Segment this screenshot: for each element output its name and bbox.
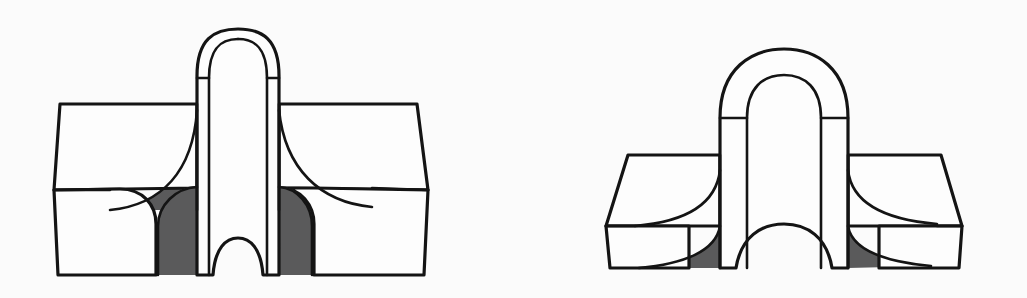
left-figure <box>0 0 520 298</box>
plate-right-lower-face <box>879 226 962 268</box>
plate-top-face-right <box>279 104 428 190</box>
illustration-page <box>0 0 1027 298</box>
boss-outer-outline <box>720 49 848 268</box>
plate-right-upper-face <box>848 155 962 226</box>
right-figure <box>507 0 1027 298</box>
plate-left-upper-face <box>606 155 720 226</box>
